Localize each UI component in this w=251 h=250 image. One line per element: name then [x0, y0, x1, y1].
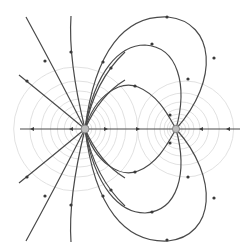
arrow-icon: [104, 127, 108, 131]
arrow-icon: [69, 127, 73, 131]
positive-charge: [81, 125, 89, 133]
arrow-icon: [43, 194, 46, 197]
arrow-icon: [30, 127, 34, 131]
arrow-icon: [109, 188, 112, 191]
arrow-icon: [212, 56, 215, 59]
arrow-icon: [25, 175, 28, 178]
arrow-icon: [212, 196, 215, 199]
field-line-lower-left-3: [71, 129, 85, 242]
arrow-icon: [165, 238, 168, 241]
arrow-icon: [133, 84, 136, 87]
arrow-icon: [25, 79, 28, 82]
arrow-icon: [109, 66, 112, 69]
arrow-icon: [101, 60, 104, 63]
arrow-icon: [101, 194, 104, 197]
field-line-diagram: [0, 0, 251, 250]
field-lines: [19, 16, 240, 242]
arrow-icon: [186, 175, 189, 178]
arrow-icon: [168, 141, 171, 144]
negative-charge: [172, 125, 179, 132]
arrow-icon: [150, 210, 153, 213]
arrow-icon: [226, 127, 230, 131]
arrow-icon: [186, 77, 189, 80]
arrow-icon: [133, 170, 136, 173]
arrow-icon: [43, 59, 46, 62]
arrow-icon: [69, 50, 72, 53]
arrow-icon: [165, 15, 168, 18]
field-line-upper-left-3: [71, 16, 85, 129]
arrow-icon: [69, 203, 72, 206]
arrow-icon: [150, 42, 153, 45]
arrow-icon: [168, 113, 171, 116]
